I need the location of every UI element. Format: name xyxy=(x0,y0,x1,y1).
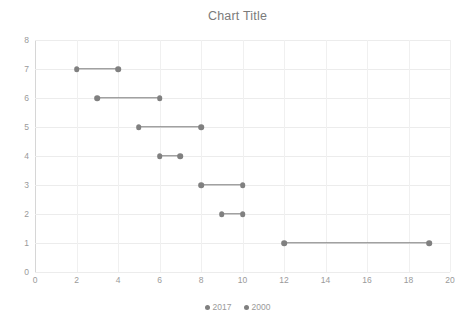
gridline-vertical xyxy=(201,40,202,272)
dumbbell-connector xyxy=(97,97,159,98)
chart-legend: 20172000 xyxy=(0,303,475,312)
data-point-2000[interactable] xyxy=(240,182,246,188)
gridline-horizontal xyxy=(35,272,450,273)
plot-area xyxy=(35,40,450,272)
y-axis-tick-label: 1 xyxy=(7,239,29,248)
dumbbell-connector xyxy=(284,242,429,243)
legend-label: 2017 xyxy=(213,303,232,312)
legend-marker-icon xyxy=(205,305,210,310)
x-axis-tick-label: 20 xyxy=(438,276,462,285)
gridline-vertical xyxy=(284,40,285,272)
data-point-2017[interactable] xyxy=(281,240,287,246)
y-axis-tick-label: 5 xyxy=(7,123,29,132)
y-axis-tick-labels: 012345678 xyxy=(0,40,29,272)
x-axis-tick-label: 8 xyxy=(189,276,213,285)
legend-item-2017[interactable]: 2017 xyxy=(205,303,232,312)
gridline-vertical xyxy=(450,40,451,272)
data-point-2017[interactable] xyxy=(94,95,100,101)
gridline-vertical xyxy=(77,40,78,272)
legend-item-2000[interactable]: 2000 xyxy=(244,303,271,312)
gridline-vertical xyxy=(118,40,119,272)
x-axis-tick-label: 12 xyxy=(272,276,296,285)
y-axis-tick-label: 7 xyxy=(7,65,29,74)
data-point-2000[interactable] xyxy=(115,66,121,72)
data-point-2017[interactable] xyxy=(74,66,80,72)
chart-container: Chart Title 012345678 02468101214161820 … xyxy=(0,0,475,331)
data-point-2000[interactable] xyxy=(198,124,204,130)
x-axis-tick-label: 18 xyxy=(397,276,421,285)
gridline-vertical xyxy=(409,40,410,272)
gridline-vertical xyxy=(326,40,327,272)
x-axis-tick-labels: 02468101214161820 xyxy=(35,276,450,292)
y-axis-tick-label: 3 xyxy=(7,181,29,190)
y-axis-tick-label: 2 xyxy=(7,210,29,219)
x-axis-tick-label: 10 xyxy=(231,276,255,285)
gridline-vertical xyxy=(367,40,368,272)
legend-label: 2000 xyxy=(252,303,271,312)
data-point-2017[interactable] xyxy=(198,182,204,188)
dumbbell-connector xyxy=(77,68,119,69)
y-axis-tick-label: 8 xyxy=(7,36,29,45)
x-axis-tick-label: 14 xyxy=(314,276,338,285)
data-point-2017[interactable] xyxy=(219,211,225,217)
x-axis-tick-label: 2 xyxy=(65,276,89,285)
dumbbell-connector xyxy=(139,126,201,127)
x-axis-tick-label: 6 xyxy=(148,276,172,285)
data-point-2000[interactable] xyxy=(426,240,432,246)
x-axis-tick-label: 0 xyxy=(23,276,47,285)
data-point-2000[interactable] xyxy=(240,211,246,217)
dumbbell-connector xyxy=(201,184,243,185)
legend-marker-icon xyxy=(244,305,249,310)
x-axis-tick-label: 16 xyxy=(355,276,379,285)
y-axis-tick-label: 6 xyxy=(7,94,29,103)
data-point-2000[interactable] xyxy=(177,153,183,159)
data-point-2017[interactable] xyxy=(136,124,142,130)
chart-title: Chart Title xyxy=(0,9,475,23)
data-point-2017[interactable] xyxy=(157,153,163,159)
y-axis-tick-label: 4 xyxy=(7,152,29,161)
data-point-2000[interactable] xyxy=(157,95,163,101)
gridline-vertical xyxy=(243,40,244,272)
x-axis-tick-label: 4 xyxy=(106,276,130,285)
